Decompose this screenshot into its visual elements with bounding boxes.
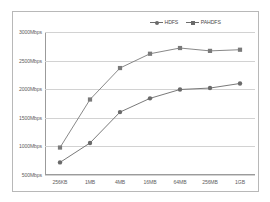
series-layer bbox=[0, 0, 270, 202]
chart-figure: HDFS PAHDFS 3000Mbps2500Mbps2000Mbps1500… bbox=[0, 0, 270, 202]
data-point-marker[interactable] bbox=[178, 46, 182, 50]
data-point-marker[interactable] bbox=[238, 81, 242, 85]
data-point-marker[interactable] bbox=[58, 145, 62, 149]
data-point-marker[interactable] bbox=[118, 110, 122, 114]
data-point-marker[interactable] bbox=[148, 96, 152, 100]
data-point-marker[interactable] bbox=[148, 52, 152, 56]
data-point-marker[interactable] bbox=[58, 160, 62, 164]
data-point-marker[interactable] bbox=[178, 87, 182, 91]
data-point-marker[interactable] bbox=[88, 97, 92, 101]
data-point-marker[interactable] bbox=[208, 86, 212, 90]
data-point-marker[interactable] bbox=[88, 141, 92, 145]
data-point-marker[interactable] bbox=[118, 66, 122, 70]
data-point-marker[interactable] bbox=[208, 49, 212, 53]
data-point-marker[interactable] bbox=[238, 48, 242, 52]
series-line-hdfs bbox=[60, 83, 240, 162]
